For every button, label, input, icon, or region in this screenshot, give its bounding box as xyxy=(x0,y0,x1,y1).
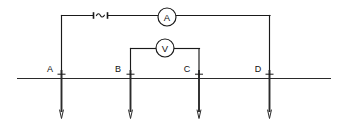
ac-source-symbol xyxy=(94,12,108,19)
circuit-schematic-canvas: A V A B xyxy=(0,0,348,129)
ammeter: A xyxy=(158,8,176,26)
electrode-a-label: A xyxy=(47,64,53,74)
ammeter-label: A xyxy=(164,12,171,23)
ac-source-tilde-icon xyxy=(96,14,104,17)
electrode-b: B xyxy=(115,64,135,119)
electrode-a: A xyxy=(47,64,66,119)
electrode-d: D xyxy=(255,64,274,119)
voltmeter: V xyxy=(156,39,174,57)
electrode-c: C xyxy=(184,64,203,119)
electrode-b-label: B xyxy=(115,64,121,74)
resistivity-survey-diagram: A V A B xyxy=(0,0,348,129)
electrode-d-label: D xyxy=(255,64,262,74)
electrode-c-label: C xyxy=(184,64,191,74)
voltmeter-label: V xyxy=(162,43,169,54)
